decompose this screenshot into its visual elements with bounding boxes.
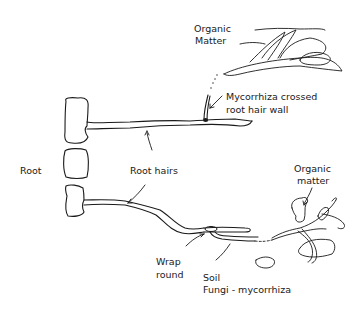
arrow-soil bbox=[216, 244, 230, 260]
label-organic-matter-bottom-2: matter bbox=[297, 175, 329, 186]
label-organic-matter-top-2: Matter bbox=[195, 35, 226, 46]
label-mycorrhiza-crossed-2: root hair wall bbox=[226, 104, 288, 115]
label-organic-matter-bottom: Organic bbox=[294, 163, 331, 174]
root-cells bbox=[64, 98, 89, 217]
label-root-hairs: Root hairs bbox=[130, 165, 178, 176]
root-hair-upper bbox=[87, 119, 252, 129]
label-wrap-round-2: round bbox=[156, 269, 184, 280]
mycorrhiza-crossing bbox=[203, 74, 218, 122]
arrow-mycorrhiza-crossed bbox=[210, 96, 222, 108]
root-hair-lower bbox=[84, 200, 204, 234]
wrap-round-section bbox=[204, 227, 258, 242]
arrow-wrap-round bbox=[186, 234, 204, 246]
label-fungi-mycorrhiza: Fungi - mycorrhiza bbox=[203, 284, 291, 295]
root-cell-middle bbox=[64, 149, 89, 179]
mycorrhiza-diagram: Organic Matter Mycorrhiza crossed root h… bbox=[0, 0, 361, 312]
label-mycorrhiza-crossed: Mycorrhiza crossed bbox=[226, 91, 317, 102]
label-wrap-round: Wrap bbox=[156, 256, 181, 267]
organic-matter-top-shape bbox=[224, 28, 342, 75]
arrow-root-hairs-upper bbox=[147, 133, 152, 150]
root-cell-bottom bbox=[66, 185, 84, 216]
label-soil: Soil bbox=[203, 272, 220, 283]
label-root: Root bbox=[20, 165, 42, 176]
label-organic-matter-top: Organic bbox=[194, 23, 231, 34]
root-cell-top bbox=[65, 98, 88, 144]
